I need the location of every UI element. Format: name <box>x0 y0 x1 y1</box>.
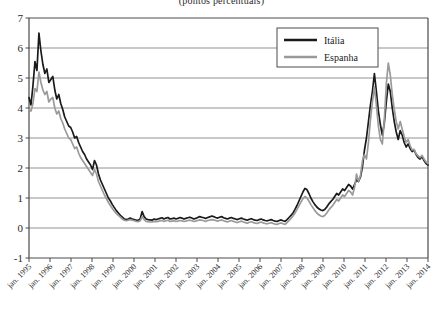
legend-label: Itália <box>324 35 345 46</box>
y-axis-label: 1 <box>18 192 24 204</box>
y-axis-label: 3 <box>18 132 24 144</box>
y-axis-label: 6 <box>18 42 24 54</box>
line-chart: -101234567jan. 1995jan. 1996jan. 1997jan… <box>0 0 443 314</box>
series-line-espanha <box>29 63 428 224</box>
y-axis-label: 2 <box>18 162 24 174</box>
y-axis-label: 7 <box>18 12 24 24</box>
chart-container: (pontos percentuais) -101234567jan. 1995… <box>0 0 443 314</box>
y-axis-label: -1 <box>14 252 23 264</box>
y-axis-label: 5 <box>18 72 24 84</box>
y-axis-label: 4 <box>18 102 24 114</box>
legend-label: Espanha <box>324 52 358 63</box>
y-axis-label: 0 <box>18 222 24 234</box>
